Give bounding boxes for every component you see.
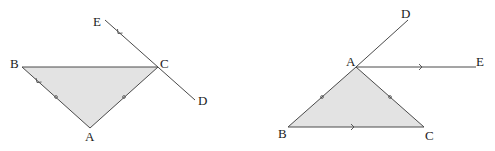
geometry-diagram: E B C D A D A E B C (0, 0, 495, 151)
left-label-a: A (85, 129, 95, 144)
right-label-a: A (346, 54, 356, 69)
left-label-c: C (160, 56, 169, 71)
right-label-b: B (278, 126, 287, 141)
right-line-ad (356, 20, 408, 67)
left-label-b: B (10, 56, 19, 71)
right-figure: D A E B C (278, 6, 484, 143)
diagram-canvas: E B C D A D A E B C (0, 0, 495, 151)
left-figure: E B C D A (10, 14, 207, 144)
right-label-e: E (476, 54, 484, 69)
left-triangle-abc (22, 67, 158, 128)
left-label-d: D (198, 93, 207, 108)
right-label-c: C (425, 128, 434, 143)
right-triangle-abc (288, 67, 424, 127)
left-label-e: E (93, 14, 101, 29)
right-label-d: D (401, 6, 410, 21)
